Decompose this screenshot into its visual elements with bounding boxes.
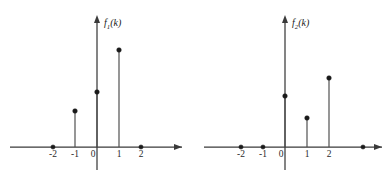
tick-label-f2-0: -2 <box>237 149 245 159</box>
y-axis-arrow-f1 <box>94 15 100 23</box>
stem-f2-k0 <box>283 94 288 147</box>
chart-title-f2-arg: (k) <box>298 17 310 29</box>
stem-f2-k3 <box>361 145 365 149</box>
chart-title-f1: f1(k) <box>104 17 122 30</box>
tick-label-f2-2: 0 <box>279 149 284 159</box>
data-point <box>117 48 122 53</box>
tick-label-f1-3: 1 <box>117 149 122 159</box>
chart-title-f2: f2(k) <box>292 17 310 30</box>
data-point <box>361 145 365 149</box>
tick-label-f1-1: -1 <box>71 149 79 159</box>
stems-f2 <box>239 76 365 149</box>
tick-label-f1-2: 0 <box>91 149 96 159</box>
stem-f1-k1 <box>117 48 122 147</box>
data-point <box>305 116 310 121</box>
data-point <box>95 90 100 95</box>
chart-title-f1-arg: (k) <box>110 17 122 29</box>
tick-label-f2-4: 2 <box>327 149 332 159</box>
chart-f1: f1(k) -2 -1 0 <box>0 0 196 181</box>
data-point <box>327 76 332 81</box>
data-point <box>283 94 288 99</box>
stem-f1-k0 <box>95 90 100 147</box>
stem-f2-k2 <box>327 76 332 147</box>
x-tick-labels-f2: -2 -1 0 1 2 <box>237 149 332 159</box>
stem-f2-k1 <box>305 116 310 147</box>
axes-f2 <box>204 15 382 170</box>
x-tick-labels-f1: -2 -1 0 1 2 <box>49 149 144 159</box>
chart-f2: f2(k) - <box>196 0 392 181</box>
y-axis-arrow-f2 <box>282 15 288 23</box>
stem-f1-km1 <box>73 109 78 147</box>
tick-label-f1-4: 2 <box>139 149 144 159</box>
tick-label-f2-3: 1 <box>305 149 310 159</box>
x-axis-arrow-f2 <box>374 144 382 150</box>
figure-root: f1(k) -2 -1 0 <box>0 0 392 181</box>
data-point <box>73 109 78 114</box>
x-axis-arrow-f1 <box>174 144 182 150</box>
tick-label-f1-0: -2 <box>49 149 57 159</box>
tick-label-f2-1: -1 <box>259 149 267 159</box>
